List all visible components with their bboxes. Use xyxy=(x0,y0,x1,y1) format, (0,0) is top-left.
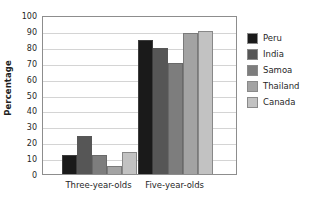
y-axis-tick-label: 0 xyxy=(32,171,37,180)
bar xyxy=(168,63,183,174)
y-axis-tick-label: 70 xyxy=(27,59,37,68)
bar xyxy=(92,155,107,174)
y-axis-tick-label: 20 xyxy=(27,139,37,148)
y-axis-title-text: Percentage xyxy=(3,60,13,116)
legend-item[interactable]: Thailand xyxy=(247,80,300,92)
y-axis-tick-label: 90 xyxy=(27,27,37,36)
bar xyxy=(62,155,77,174)
legend-swatch xyxy=(247,65,258,76)
bar-group xyxy=(62,17,137,174)
legend-item[interactable]: Peru xyxy=(247,32,300,44)
legend-swatch xyxy=(247,81,258,92)
y-axis-tick-label: 80 xyxy=(27,43,37,52)
y-axis-title: Percentage xyxy=(0,0,16,175)
legend-item[interactable]: India xyxy=(247,48,300,60)
legend-label: India xyxy=(263,50,284,59)
legend-label: Thailand xyxy=(263,82,300,91)
y-axis-tick-label: 10 xyxy=(27,155,37,164)
x-axis-tick-labels: Three-year-oldsFive-year-olds xyxy=(42,180,237,200)
legend-swatch xyxy=(247,33,258,44)
y-axis-tick-label: 40 xyxy=(27,107,37,116)
x-axis-tick-label: Three-year-olds xyxy=(65,180,131,190)
legend-item[interactable]: Canada xyxy=(247,96,300,108)
bars-layer xyxy=(43,17,236,174)
bar xyxy=(107,166,122,174)
legend: PeruIndiaSamoaThailandCanada xyxy=(247,32,300,108)
bar-chart: Percentage 0102030405060708090100 Three-… xyxy=(0,0,325,211)
legend-label: Peru xyxy=(263,34,282,43)
bar xyxy=(183,33,198,175)
bar xyxy=(77,136,92,174)
x-axis-tick-label: Five-year-olds xyxy=(145,180,204,190)
legend-label: Samoa xyxy=(263,66,292,75)
y-axis-tick-label: 60 xyxy=(27,75,37,84)
bar xyxy=(153,48,168,174)
legend-swatch xyxy=(247,97,258,108)
y-axis-tick-labels: 0102030405060708090100 xyxy=(16,16,40,175)
bar xyxy=(122,152,137,174)
legend-item[interactable]: Samoa xyxy=(247,64,300,76)
y-axis-tick-label: 30 xyxy=(27,123,37,132)
legend-label: Canada xyxy=(263,98,295,107)
plot-area xyxy=(42,16,237,175)
legend-swatch xyxy=(247,49,258,60)
bar-group xyxy=(138,17,213,174)
y-axis-tick-label: 50 xyxy=(27,91,37,100)
bar xyxy=(138,40,153,174)
y-axis-tick-label: 100 xyxy=(22,12,37,21)
bar xyxy=(198,31,213,174)
